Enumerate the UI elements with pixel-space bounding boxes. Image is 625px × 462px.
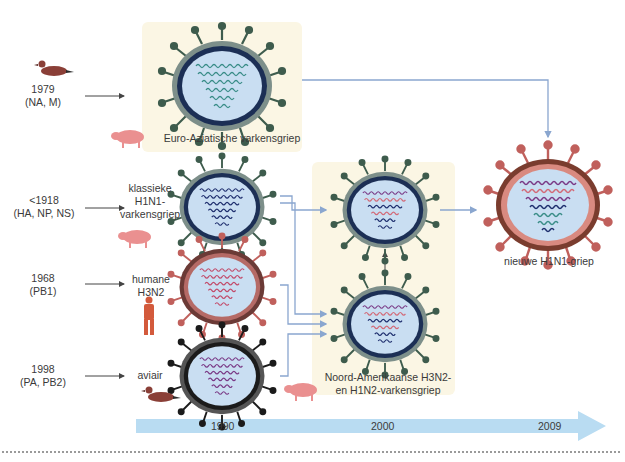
pig-icon [111, 130, 144, 148]
duck-icon [141, 387, 181, 403]
pig-icon [118, 230, 151, 248]
source-human-1968: 1968 (PB1) [18, 272, 68, 298]
source-segments: (NA, M) [18, 96, 68, 109]
source-segments: (PA, PB2) [10, 376, 76, 389]
label-avian: aviair [130, 369, 170, 382]
source-classic-1918: <1918 (HA, NP, NS) [4, 194, 84, 220]
dotted-divider [2, 451, 620, 453]
animal-icons [0, 0, 625, 462]
label-classic-h1n1: klassieke H1N1- varkensgriep [120, 182, 180, 221]
label-human-h3n2: humane H3N2 [126, 273, 176, 299]
source-segments: (PB1) [18, 285, 68, 298]
pig-icon [284, 383, 317, 401]
source-year: 1968 [18, 272, 68, 285]
source-segments: (HA, NP, NS) [4, 207, 84, 220]
label-new-h1n1: nieuwe H1N1-griep [496, 255, 602, 268]
label-euro-asian: Euro-Aziatische varkensgriep [162, 132, 302, 145]
label-north-american: Noord-Amerikaanse H3N2- en H1N2-varkensg… [322, 371, 454, 397]
source-year: 1979 [18, 83, 68, 96]
timeline-tick-1990: 1990 [211, 420, 234, 432]
source-year: <1918 [4, 194, 84, 207]
timeline-tick-2009: 2009 [538, 420, 561, 432]
duck-icon [34, 61, 74, 77]
source-year: 1998 [10, 363, 76, 376]
source-duck-1979: 1979 (NA, M) [18, 83, 68, 109]
source-avian-1998: 1998 (PA, PB2) [10, 363, 76, 389]
timeline-tick-2000: 2000 [371, 420, 394, 432]
human-icon [144, 297, 154, 336]
